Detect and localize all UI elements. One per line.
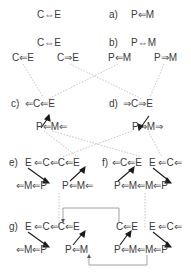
dotted-link-b-d-right <box>150 64 164 97</box>
panel-c-bottom-expr: P⇐M⇐ <box>36 121 67 133</box>
panel-b-split-1: C⇐E <box>12 52 34 64</box>
dotted-link-d-e <box>62 131 132 157</box>
panel-b-top-left-expr: C⇔E <box>37 37 61 49</box>
panel-b-top-right-expr: P⇔M <box>131 37 156 49</box>
panel-f-top-left-expr: ⇐C⇐E <box>112 157 142 169</box>
panel-g-bottom-mid-expr: P⇐M <box>65 244 88 256</box>
panel-b-split-3: P⇐M <box>108 52 131 64</box>
panel-g-bottom-left-expr: ⇐M⇐P <box>16 244 47 256</box>
panel-e-marker: e) <box>9 157 18 169</box>
panel-b-split-4: P⇒M <box>154 52 177 64</box>
dotted-link-b-c-right <box>48 64 118 99</box>
loop-connector-top <box>63 208 119 222</box>
panel-a-right-expr: P⇐M <box>131 9 154 21</box>
panel-c-top-expr: ⇐C⇐E <box>25 98 55 110</box>
panel-f-bottom-expr: P⇐M⇐M⇐P <box>114 180 168 192</box>
panel-e-bottom-right-expr: P⇐M⇐ <box>62 180 93 192</box>
panel-d-marker: d) <box>109 98 118 110</box>
panel-e-bottom-left-expr: ⇐M⇐P <box>16 180 47 192</box>
arrow-g-e-to-p-right <box>153 232 168 244</box>
dotted-link-b-d-left <box>70 64 142 99</box>
panel-d-bottom-expr: P⇒M⇒ <box>132 121 163 133</box>
panel-g-top-right-expr: E ⇐C⇐ <box>149 221 182 233</box>
panel-f-marker: f) <box>102 157 108 169</box>
panel-b-marker: b) <box>109 37 118 49</box>
panel-g-top-left-expr: E ⇐C⇐C⇐E <box>25 221 80 233</box>
panel-b-split-2: C⇒E <box>57 52 79 64</box>
panel-g-top-mid-expr: C⇐E <box>116 221 138 233</box>
loop-connector-bottom <box>89 255 147 265</box>
dotted-link-d-f <box>148 131 162 157</box>
panel-g-marker: g) <box>9 221 18 233</box>
panel-d-top-expr: ⇒C⇒E <box>123 98 153 110</box>
panel-a-left-expr: C⇔E <box>37 9 61 21</box>
panel-a-marker: a) <box>109 9 118 21</box>
panel-g-bottom-right-expr: P⇐M⇐M⇐P <box>114 244 168 256</box>
panel-e-top-expr: E ⇐C⇐C⇐E <box>25 157 80 169</box>
dotted-link-b-c-left <box>23 64 43 97</box>
arrow-f-e-to-p <box>153 168 168 180</box>
panel-f-top-right-expr: E ⇐C⇐ <box>149 157 182 169</box>
panel-c-marker: c) <box>11 98 19 110</box>
